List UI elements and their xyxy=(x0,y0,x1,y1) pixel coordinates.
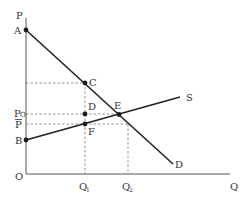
point-b xyxy=(24,138,29,143)
pbar-label: P xyxy=(15,119,22,130)
point-f xyxy=(83,122,88,127)
supply-demand-diagram: P Q O A C D E F B S D P O P Q 1 Q 2 xyxy=(0,0,246,205)
pbar-text: P xyxy=(15,119,22,130)
point-d xyxy=(83,112,88,117)
supply-curve xyxy=(26,97,180,140)
p0-label: P O xyxy=(14,108,26,119)
p0-subscript: O xyxy=(20,111,26,119)
label-e: E xyxy=(114,100,121,111)
q2-subscript: 2 xyxy=(129,186,133,193)
demand-curve xyxy=(26,30,173,164)
point-e xyxy=(117,112,122,117)
q1-subscript: 1 xyxy=(86,186,90,193)
demand-label: D xyxy=(175,159,183,170)
label-f: F xyxy=(88,126,95,137)
supply-label: S xyxy=(186,92,193,103)
q2-label: Q 2 xyxy=(122,181,133,193)
q1-label: Q 1 xyxy=(79,181,90,193)
label-a: A xyxy=(13,25,22,36)
label-b: B xyxy=(15,135,22,146)
y-axis-label: P xyxy=(16,10,23,21)
label-c: C xyxy=(89,77,97,88)
point-c xyxy=(83,81,88,86)
origin-label: O xyxy=(15,171,23,182)
guide-c xyxy=(26,83,85,174)
x-axis-label: Q xyxy=(230,181,238,192)
label-d: D xyxy=(88,101,96,112)
point-a xyxy=(24,28,29,33)
